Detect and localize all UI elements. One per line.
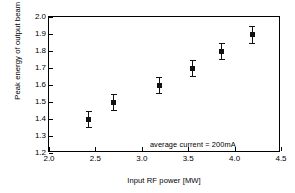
- error-bar-cap-bottom: [249, 43, 255, 44]
- chart-figure: Peak energy of output beam [MeV] 1.21.31…: [0, 0, 295, 193]
- error-bar-cap-top: [190, 60, 196, 61]
- x-tick-label: 2.5: [90, 154, 101, 164]
- error-bar-cap-bottom: [111, 110, 117, 111]
- y-tick-label: 2.0: [35, 12, 46, 22]
- error-bar-cap-bottom: [190, 76, 196, 77]
- y-tick-mark: [49, 68, 53, 69]
- y-tick-mark: [49, 102, 53, 103]
- y-tick-label: 1.6: [35, 80, 46, 90]
- data-marker: [219, 49, 224, 54]
- error-bar-cap-top: [249, 26, 255, 27]
- y-tick-label: 1.7: [35, 63, 46, 73]
- x-tick-mark: [95, 147, 96, 151]
- error-bar-cap-bottom: [156, 93, 162, 94]
- x-tick-mark: [142, 147, 143, 151]
- data-marker: [86, 117, 91, 122]
- y-tick-mark: [49, 85, 53, 86]
- error-bar-cap-top: [111, 94, 117, 95]
- data-marker: [111, 100, 116, 105]
- x-tick-label: 4.5: [275, 154, 286, 164]
- error-bar-cap-bottom: [86, 127, 92, 128]
- y-tick-label: 1.8: [35, 46, 46, 56]
- x-tick-label: 2.0: [43, 154, 54, 164]
- y-tick-mark: [49, 51, 53, 52]
- x-axis-label: Input RF power [MW]: [48, 176, 280, 185]
- y-tick-label: 1.3: [35, 131, 46, 141]
- y-tick-label: 1.9: [35, 29, 46, 39]
- y-axis-label: Peak energy of output beam [MeV]: [13, 0, 22, 115]
- x-tick-mark: [49, 147, 50, 151]
- error-bar-cap-bottom: [219, 59, 225, 60]
- error-bar-cap-top: [156, 77, 162, 78]
- y-tick-mark: [49, 34, 53, 35]
- x-tick-label: 4.0: [229, 154, 240, 164]
- x-tick-mark: [281, 147, 282, 151]
- y-tick-label: 1.4: [35, 114, 46, 124]
- y-tick-mark: [49, 17, 53, 18]
- error-bar-cap-top: [219, 43, 225, 44]
- plot-area: 1.21.31.41.51.61.71.81.92.0 2.02.53.03.5…: [48, 16, 280, 152]
- data-marker: [157, 83, 162, 88]
- y-tick-label: 1.5: [35, 97, 46, 107]
- error-bar-cap-top: [86, 111, 92, 112]
- y-tick-mark: [49, 136, 53, 137]
- x-tick-label: 3.5: [183, 154, 194, 164]
- annotation-average-current: average current = 200mA: [150, 139, 236, 148]
- data-marker: [190, 66, 195, 71]
- x-tick-label: 3.0: [136, 154, 147, 164]
- y-tick-mark: [49, 119, 53, 120]
- data-marker: [250, 32, 255, 37]
